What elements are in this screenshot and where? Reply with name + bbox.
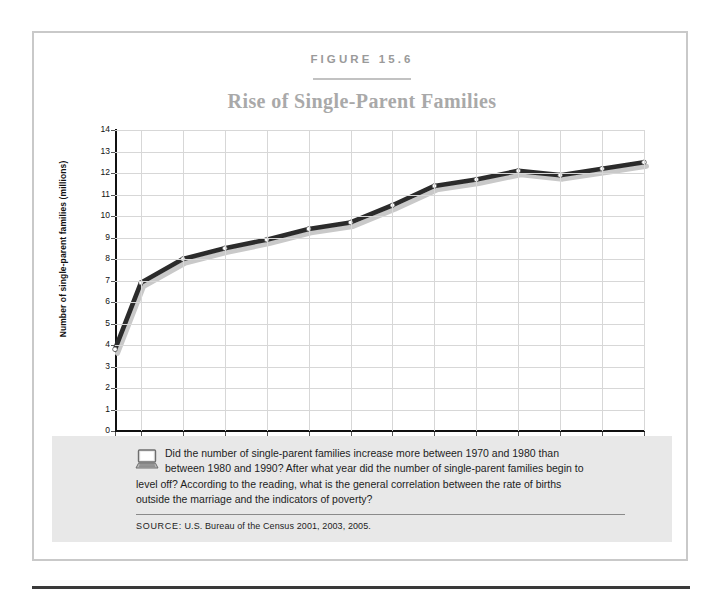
gridline-vertical: [602, 130, 603, 431]
gridline-horizontal: [115, 173, 644, 174]
y-tick-label: 6: [86, 296, 110, 306]
y-tick-mark: [111, 259, 115, 260]
caption-text: Did the number of single-parent families…: [165, 446, 625, 508]
page-bottom-rule: [32, 586, 690, 589]
gridline-vertical: [225, 130, 226, 431]
y-tick-label: 11: [86, 189, 110, 199]
caption-line-1: Did the number of single-parent families…: [165, 447, 559, 459]
y-axis-title: Number of single-parent families (millio…: [58, 113, 68, 385]
y-tick-label: 9: [86, 232, 110, 242]
caption-band: Did the number of single-parent families…: [52, 436, 672, 542]
caption-line-3: level off? According to the reading, wha…: [136, 477, 625, 492]
y-tick-label: 5: [86, 318, 110, 328]
gridline-horizontal: [115, 302, 644, 303]
laptop-icon: [135, 449, 161, 471]
figure-page: FIGURE 15.6 Rise of Single-Parent Famili…: [0, 0, 723, 599]
y-tick-label: 3: [86, 361, 110, 371]
y-tick-label: 4: [86, 339, 110, 349]
y-tick-label: 1: [86, 404, 110, 414]
caption-divider: [136, 514, 625, 515]
caption-line-2: between 1980 and 1990? After what year d…: [165, 461, 625, 476]
gridline-vertical: [351, 130, 352, 431]
y-tick-label: 14: [86, 124, 110, 134]
gridline-vertical: [518, 130, 519, 431]
y-tick-mark: [111, 281, 115, 282]
y-tick-mark: [111, 195, 115, 196]
y-tick-label: 12: [86, 167, 110, 177]
y-tick-mark: [111, 302, 115, 303]
y-tick-label: 8: [86, 253, 110, 263]
gridline-horizontal: [115, 281, 644, 282]
gridline-vertical: [434, 130, 435, 431]
figure-card: FIGURE 15.6 Rise of Single-Parent Famili…: [32, 31, 688, 561]
gridline-horizontal: [115, 410, 644, 411]
gridline-vertical: [183, 130, 184, 431]
gridline-vertical: [476, 130, 477, 431]
y-tick-mark: [111, 173, 115, 174]
gridline-horizontal: [115, 259, 644, 260]
y-tick-mark: [111, 130, 115, 131]
y-tick-label: 13: [86, 146, 110, 156]
y-tick-mark: [111, 388, 115, 389]
gridline-horizontal: [115, 216, 644, 217]
y-tick-mark: [111, 324, 115, 325]
caption-line-4: outside the marriage and the indicators …: [136, 492, 625, 507]
gridline-horizontal: [115, 367, 644, 368]
y-tick-mark: [111, 410, 115, 411]
source-text: U.S. Bureau of the Census 2001, 2003, 20…: [182, 521, 371, 531]
y-tick-mark: [111, 345, 115, 346]
plot-box: [115, 130, 644, 431]
gridline-horizontal: [115, 324, 644, 325]
gridline-horizontal: [115, 130, 644, 131]
y-tick-label: 7: [86, 275, 110, 285]
gridline-horizontal: [115, 238, 644, 239]
y-tick-label: 0: [86, 425, 110, 435]
gridline-horizontal: [115, 152, 644, 153]
gridline-vertical: [141, 130, 142, 431]
gridline-vertical: [392, 130, 393, 431]
gridline-horizontal: [115, 345, 644, 346]
y-tick-label: 2: [86, 382, 110, 392]
y-tick-mark: [111, 152, 115, 153]
y-tick-mark: [111, 216, 115, 217]
series-path: [115, 162, 644, 349]
gridline-vertical: [560, 130, 561, 431]
gridline-vertical: [267, 130, 268, 431]
source-line: SOURCE: U.S. Bureau of the Census 2001, …: [136, 521, 636, 531]
gridline-horizontal: [115, 195, 644, 196]
source-keyword: SOURCE:: [136, 521, 182, 531]
y-tick-label: 10: [86, 210, 110, 220]
gridline-vertical: [309, 130, 310, 431]
data-point-marker: [113, 347, 118, 352]
gridline-vertical: [644, 130, 645, 431]
y-tick-mark: [111, 238, 115, 239]
gridline-horizontal: [115, 388, 644, 389]
y-tick-mark: [111, 367, 115, 368]
